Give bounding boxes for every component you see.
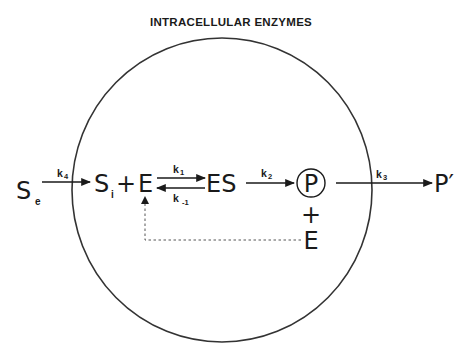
substrate-internal-label: S [94, 170, 109, 198]
enzyme-substrate-complex-label: ES [206, 170, 236, 198]
svg-text:3: 3 [383, 173, 387, 182]
svg-text:-1: -1 [182, 198, 189, 207]
product-circled: P [297, 169, 325, 198]
enzyme-kinetics-diagram: INTRACELLULAR ENZYMES S e k 4 S i + E k … [0, 0, 471, 357]
plus-sign-1: + [116, 170, 136, 198]
svg-text:4: 4 [64, 172, 69, 181]
k1-label: k 1 [173, 163, 184, 177]
substrate-external-subscript: e [35, 196, 41, 207]
substrate-internal-subscript: i [111, 189, 114, 200]
svg-text:k: k [376, 168, 382, 180]
enzyme-recycle-dashed-line [145, 204, 301, 240]
k3-label: k 3 [376, 168, 387, 182]
k4-label: k 4 [57, 167, 69, 181]
svg-text:2: 2 [268, 172, 272, 181]
substrate-external-label: S [16, 177, 31, 205]
product-label: P [304, 170, 318, 198]
substrate-internal: S i [94, 170, 114, 200]
svg-text:1: 1 [180, 168, 184, 177]
svg-text:k: k [261, 167, 267, 179]
substrate-external: S e [16, 177, 41, 207]
enzyme-label: E [138, 170, 153, 198]
diagram-title: INTRACELLULAR ENZYMES [150, 16, 312, 28]
k2-label: k 2 [261, 167, 272, 181]
svg-text:k: k [57, 167, 63, 179]
svg-text:k: k [173, 192, 179, 204]
enzyme-released-label: E [303, 227, 318, 255]
product-external-label: P′ [434, 170, 454, 198]
plus-sign-2: + [301, 201, 321, 229]
svg-text:k: k [173, 163, 179, 175]
k-minus-1-label: k -1 [173, 192, 189, 207]
